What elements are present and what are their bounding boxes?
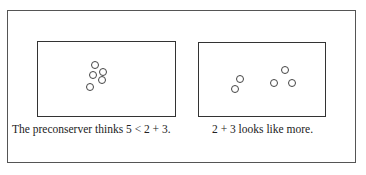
counter-circle bbox=[86, 83, 94, 91]
left-caption: The preconserver thinks 5 < 2 + 3. bbox=[12, 123, 171, 135]
counter-circle bbox=[91, 61, 99, 69]
left-panel bbox=[37, 41, 176, 117]
counter-circle bbox=[236, 75, 244, 83]
counter-circle bbox=[288, 79, 296, 87]
counter-circle bbox=[270, 79, 278, 87]
right-panel bbox=[198, 42, 326, 117]
counter-circle bbox=[281, 66, 289, 74]
counter-circle bbox=[99, 68, 107, 76]
right-caption: 2 + 3 looks like more. bbox=[212, 123, 313, 135]
counter-circle bbox=[98, 76, 106, 84]
counter-circle bbox=[231, 85, 239, 93]
counter-circle bbox=[89, 71, 97, 79]
